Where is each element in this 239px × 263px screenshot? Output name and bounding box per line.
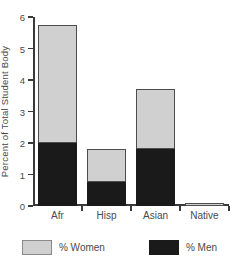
y-tick-label: 6 (20, 12, 25, 23)
bar-segment[interactable] (87, 149, 126, 182)
y-tick-label: 4 (20, 75, 25, 86)
x-axis-label: Asian (131, 210, 180, 221)
bar-group[interactable] (136, 17, 175, 206)
bar-segment[interactable] (87, 182, 126, 206)
bar-segment[interactable] (185, 203, 224, 206)
stacked-bar-chart: STUDENT ENROLLMENT Percent of Total Stud… (0, 0, 239, 263)
legend-label: % Women (59, 242, 105, 253)
y-tick-label: 5 (20, 43, 25, 54)
legend-swatch (149, 240, 179, 255)
y-tick-label: 0 (20, 201, 25, 212)
bar-segment[interactable] (136, 89, 175, 149)
chart-legend: % Women% Men (0, 240, 239, 255)
x-axis-label: Native (180, 210, 229, 221)
bar-group[interactable] (87, 17, 126, 206)
legend-label: % Men (186, 242, 217, 253)
y-axis-title: Percent of Total Student Body (0, 17, 12, 206)
y-tick-label: 3 (20, 106, 25, 117)
bar-group[interactable] (38, 17, 77, 206)
plot-area: 0123456 (33, 17, 229, 206)
bar-segment[interactable] (38, 143, 77, 206)
x-axis-label: Hisp (82, 210, 131, 221)
bar-segment[interactable] (136, 149, 175, 206)
bar-segment[interactable] (38, 25, 77, 143)
y-tick-label: 2 (20, 138, 25, 149)
y-tick-label: 1 (20, 169, 25, 180)
legend-item[interactable]: % Men (149, 240, 217, 255)
bar-group[interactable] (185, 17, 224, 206)
x-axis-labels: AfrHispAsianNative (33, 210, 229, 226)
bar-series-container (33, 17, 229, 206)
legend-swatch (22, 240, 52, 255)
chart-title: STUDENT ENROLLMENT (0, 0, 239, 2)
legend-item[interactable]: % Women (22, 240, 105, 255)
x-axis-label: Afr (33, 210, 82, 221)
y-axis-title-text: Percent of Total Student Body (0, 46, 11, 177)
